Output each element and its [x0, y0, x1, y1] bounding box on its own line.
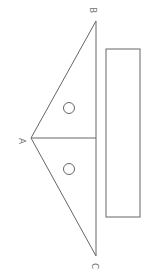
label-top-vertex: B	[88, 7, 98, 13]
label-apex: A	[17, 138, 27, 145]
circle-mark-upper	[64, 103, 75, 114]
circle-mark-lower	[64, 164, 75, 175]
geometry-diagram: A B C	[0, 0, 147, 277]
triangle-side-ac	[31, 138, 96, 256]
rectangle	[106, 49, 140, 217]
triangle-side-ab	[31, 21, 96, 138]
label-bottom-vertex: C	[90, 263, 100, 269]
